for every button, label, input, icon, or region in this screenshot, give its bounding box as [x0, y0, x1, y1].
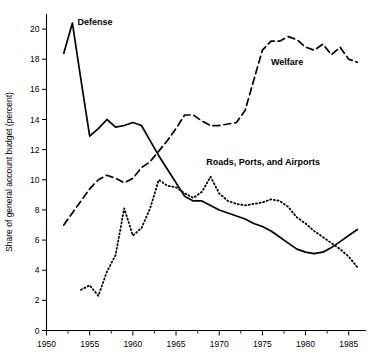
series-line-roads-ports-and-airports	[81, 177, 357, 296]
line-chart: 02468101214161820 1950195519601965197019…	[0, 0, 368, 357]
y-tick-label: 0	[35, 326, 40, 336]
y-tick-label: 12	[30, 145, 40, 155]
x-tick-label: 1985	[339, 339, 358, 349]
x-tick-label: 1950	[37, 339, 56, 349]
chart-figure: 02468101214161820 1950195519601965197019…	[0, 0, 368, 357]
series-line-defense	[64, 23, 358, 254]
y-tick-label: 8	[35, 205, 40, 215]
y-tick-label: 18	[30, 54, 40, 64]
welfare-label: Welfare	[271, 57, 303, 67]
axes	[47, 14, 367, 331]
x-tick-label: 1965	[167, 339, 186, 349]
y-tick-label: 14	[30, 115, 40, 125]
series-line-welfare	[64, 37, 358, 225]
x-tick-label: 1975	[253, 339, 272, 349]
defense-label: Defense	[78, 17, 113, 27]
y-tick-label: 6	[35, 235, 40, 245]
y-tick-label: 10	[30, 175, 40, 185]
y-axis-ticks: 02468101214161820	[30, 24, 46, 335]
x-axis-ticks: 19501955196019651970197519801985	[37, 331, 358, 349]
y-tick-label: 2	[35, 295, 40, 305]
roads-label: Roads, Ports, and Airports	[206, 157, 320, 167]
x-tick-label: 1970	[210, 339, 229, 349]
y-axis-title: Share of general account budget (percent…	[4, 92, 14, 252]
x-tick-label: 1955	[80, 339, 99, 349]
y-tick-label: 20	[30, 24, 40, 34]
y-tick-label: 4	[35, 265, 40, 275]
x-tick-label: 1980	[296, 339, 315, 349]
x-tick-label: 1960	[123, 339, 142, 349]
y-tick-label: 16	[30, 84, 40, 94]
